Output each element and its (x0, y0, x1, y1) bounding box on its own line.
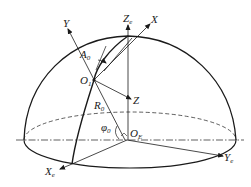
label-ye: Ye (224, 151, 233, 165)
o1-point (92, 78, 95, 81)
label-x: X (150, 13, 159, 25)
dome-outline (24, 36, 236, 140)
label-a0: A0 (79, 48, 91, 62)
z-axis (94, 80, 131, 99)
label-o1: O1 (80, 74, 91, 88)
xe-arrow (60, 164, 72, 169)
horizon-front (24, 140, 236, 168)
label-oe: OE (130, 127, 143, 141)
label-z: Z (133, 94, 140, 106)
label-ze: Ze (123, 12, 132, 26)
ye-axis (127, 140, 223, 156)
hemisphere-diagram: Ze X Y A0 O1 Z R0 φ0 OE Xe Ye (0, 0, 251, 187)
label-r0: R0 (93, 99, 105, 113)
label-phi0: φ0 (101, 121, 111, 135)
xe-axis (72, 140, 127, 164)
label-y: Y (63, 17, 71, 29)
label-xe: Xe (44, 165, 55, 179)
x-axis (94, 24, 150, 80)
